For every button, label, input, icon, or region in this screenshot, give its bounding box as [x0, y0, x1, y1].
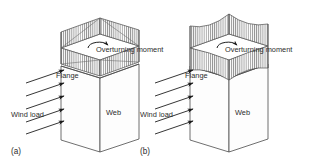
- panel-a-moment-label: Overturning moment: [96, 45, 163, 54]
- panel-a-caption: (a): [11, 147, 21, 156]
- panel-a-flange-label: Flange: [56, 71, 79, 80]
- panel-b-web-label: Web: [235, 108, 250, 117]
- panel-a: Overturning moment Flange Web Wind load …: [11, 18, 163, 156]
- panel-b-moment-label: Overturning moment: [225, 45, 292, 54]
- panel-b-wind-load-label: Wind load: [140, 110, 173, 119]
- panel-b-flange-label: Flange: [185, 71, 208, 80]
- panel-a-wind-load-label: Wind load: [11, 110, 44, 119]
- panel-b-caption: (b): [140, 147, 150, 156]
- wind-load-overturning-moment-figure: Overturning moment Flange Web Wind load …: [0, 0, 317, 168]
- panel-b: Overturning moment Flange Web Wind load …: [140, 14, 292, 156]
- figure-container: Overturning moment Flange Web Wind load …: [0, 0, 317, 168]
- panel-a-web-label: Web: [106, 108, 121, 117]
